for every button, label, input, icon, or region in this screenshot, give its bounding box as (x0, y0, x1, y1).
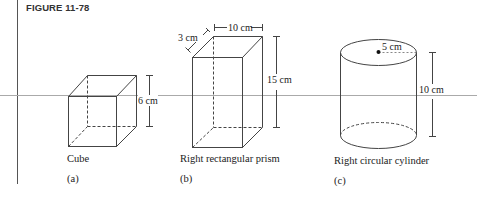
cylinder-name: Right circular cylinder (334, 155, 429, 166)
cylinder-center-dot (377, 50, 381, 54)
prism-depth-label: 3 cm (178, 32, 198, 43)
cube-caption: (a) (67, 173, 79, 184)
prism-height-label: 15 cm (267, 74, 292, 85)
cube-shape (69, 76, 154, 147)
cube-edge-label: 6 cm (138, 95, 158, 106)
prism-caption: (b) (180, 173, 192, 184)
cylinder-caption: (c) (334, 175, 346, 186)
prism-shape (186, 24, 281, 148)
cube-name: Cube (67, 153, 89, 164)
prism-width-label: 10 cm (228, 22, 253, 33)
cylinder-height-label: 10 cm (419, 84, 444, 95)
prism-name: Right rectangular prism (180, 153, 280, 164)
cylinder-radius-label: 5 cm (382, 41, 402, 52)
